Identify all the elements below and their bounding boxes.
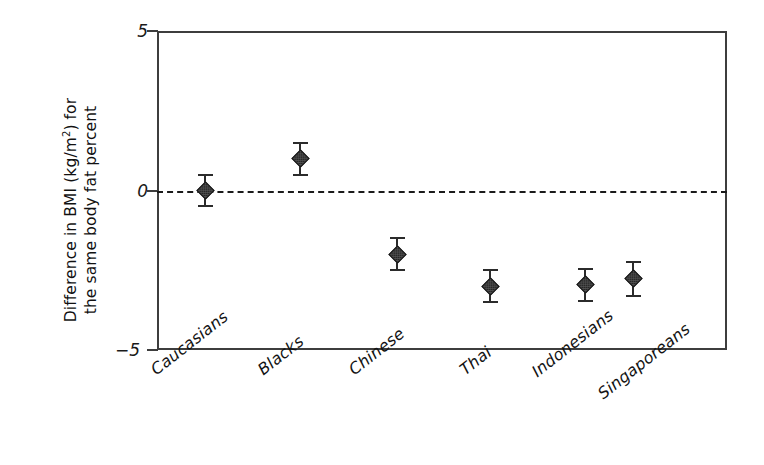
error-bar-cap-upper [390,237,405,239]
error-bar-cap-lower [198,205,213,207]
error-bar-cap-lower [293,174,308,176]
y-axis-title-line-1: Difference in BMI (kg/m2) for [61,98,81,322]
zero-reference-line [157,191,727,193]
y-axis-title-line-1-pre: Difference in BMI (kg/m [62,137,80,322]
error-bar-cap-upper [578,268,593,270]
y-axis-title: Difference in BMI (kg/m2) for the same b… [51,50,111,370]
error-bar-cap-lower [390,269,405,271]
chart-figure: Difference in BMI (kg/m2) for the same b… [0,0,764,465]
error-bar-cap-lower [578,300,593,302]
y-tick-label-5: 5 [108,21,148,41]
y-tick-label-0: 0 [108,181,148,201]
error-bar-cap-upper [483,269,498,271]
y-axis-title-superscript: 2 [61,131,72,137]
error-bar-cap-upper [293,142,308,144]
error-bar-cap-lower [626,295,641,297]
y-axis-title-line-2: the same body fat percent [81,106,101,315]
error-bar-cap-lower [483,301,498,303]
error-bar-cap-upper [626,261,641,263]
y-axis-title-line-1-post: ) for [62,98,80,131]
error-bar-cap-upper [198,174,213,176]
y-tick-label-minus-5: −5 [100,340,140,360]
